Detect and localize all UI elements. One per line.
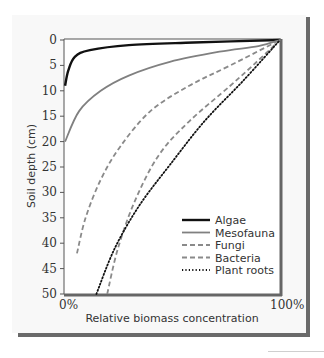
- y-tick-label: 0: [49, 33, 57, 47]
- y-tick-label: 40: [42, 236, 57, 250]
- y-tick-label: 10: [42, 84, 57, 98]
- y-tick-label: 25: [42, 160, 57, 174]
- legend-label: Fungi: [215, 239, 245, 252]
- y-tick-label: 30: [42, 185, 57, 199]
- legend-label: Algae: [215, 214, 246, 227]
- y-tick-label: 35: [42, 211, 57, 225]
- y-axis-title: Soil depth (cm): [25, 124, 38, 208]
- y-tick-label: 20: [42, 135, 57, 149]
- x-tick-min: 0%: [59, 298, 78, 312]
- x-axis-title: Relative biomass concentration: [85, 312, 258, 325]
- y-tick-label: 45: [42, 262, 57, 276]
- y-tick-label: 50: [42, 287, 57, 301]
- legend-label: Plant roots: [215, 264, 274, 277]
- chart: 05101520253035404550 0% 100% Relative bi…: [0, 0, 324, 358]
- y-tick-label: 5: [49, 58, 57, 72]
- x-tick-max: 100%: [270, 298, 304, 312]
- y-tick-label: 15: [42, 109, 57, 123]
- y-ticks: 05101520253035404550: [42, 33, 64, 301]
- legend-label: Bacteria: [215, 252, 261, 265]
- legend-label: Mesofauna: [215, 227, 275, 240]
